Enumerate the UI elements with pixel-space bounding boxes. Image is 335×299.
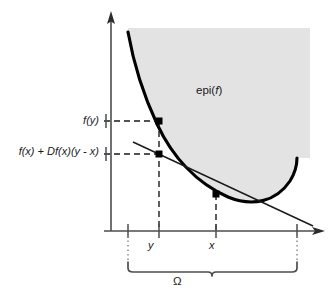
- convexity-figure: f(y) f(x) + Df(x)(y - x) epi(f) y x Ω: [0, 0, 335, 299]
- x-axis-label-y: y: [148, 240, 154, 251]
- label-tangent-value: f(x) + Df(x)(y - x): [19, 146, 99, 157]
- domain-label-omega: Ω: [173, 276, 182, 288]
- point-f-of-y-marker: [156, 118, 163, 125]
- point-tangent-at-x-marker: [213, 191, 220, 198]
- label-f-of-y: f(y): [83, 115, 99, 126]
- point-tangent-at-y-marker: [156, 151, 163, 158]
- label-epigraph-prefix: epi(: [196, 84, 215, 96]
- epigraph-shading: [128, 28, 310, 202]
- domain-brace: [128, 262, 297, 276]
- label-epigraph: epi(f): [196, 85, 222, 97]
- x-axis-label-x: x: [209, 240, 215, 251]
- label-epigraph-suffix: ): [218, 84, 222, 96]
